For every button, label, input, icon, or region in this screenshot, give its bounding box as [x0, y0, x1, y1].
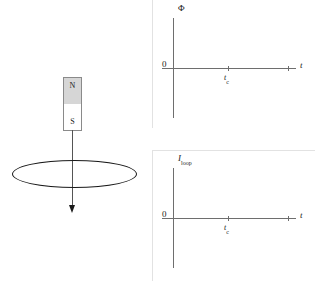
flux-x-axis-label: t: [300, 61, 303, 70]
flux-x-axis: [162, 68, 296, 69]
bar-magnet: N S: [63, 77, 82, 131]
flux-y-axis-label-text: Φ: [178, 3, 185, 13]
flux-x-tick-secondary: [288, 66, 289, 71]
flux-y-axis-label: Φ: [178, 4, 185, 13]
current-y-axis-subscript: loop: [181, 160, 192, 166]
current-tick-label-tc: tc: [224, 223, 229, 234]
current-x-tick-tc: [228, 216, 229, 221]
magnet-south-pole-label: S: [64, 118, 81, 126]
figure-root: N S 0 Φ t tc 0 Iloop t tc: [0, 0, 315, 281]
chart-flux-vs-time: 0 Φ t tc: [152, 0, 315, 128]
current-origin-label: 0: [162, 210, 167, 219]
current-y-axis-label: Iloop: [178, 154, 192, 165]
current-x-axis: [162, 218, 296, 219]
magnet-north-pole-label: N: [64, 82, 81, 90]
conducting-loop-ellipse: [12, 160, 137, 188]
flux-x-tick-tc: [228, 66, 229, 71]
current-tc-subscript: c: [226, 229, 229, 235]
current-x-tick-secondary: [288, 216, 289, 221]
flux-tc-subscript: c: [226, 79, 229, 85]
downward-motion-arrow-head-icon: [69, 205, 75, 213]
flux-tick-label-tc: tc: [224, 73, 229, 84]
magnet-loop-diagram: N S: [0, 0, 150, 281]
current-x-axis-label: t: [300, 211, 303, 220]
flux-origin-label: 0: [162, 60, 167, 69]
chart-induced-current-vs-time: 0 Iloop t tc: [152, 150, 315, 281]
